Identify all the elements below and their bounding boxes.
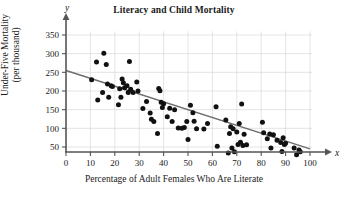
axes — [62, 13, 332, 156]
x-tick-label: 50 — [184, 158, 194, 168]
y-tick-label: 350 — [46, 30, 60, 40]
data-point — [151, 119, 156, 124]
data-point — [261, 130, 266, 135]
data-point — [192, 119, 197, 124]
data-point — [234, 130, 239, 135]
data-point — [205, 121, 210, 126]
data-point — [148, 111, 153, 116]
data-point — [116, 102, 121, 107]
data-point — [283, 141, 288, 146]
y-tick-label: 50 — [50, 142, 60, 152]
data-point — [165, 114, 170, 119]
data-point — [239, 102, 244, 107]
data-point — [194, 126, 199, 131]
data-point — [214, 104, 219, 109]
data-point — [260, 120, 265, 125]
data-point — [131, 90, 136, 95]
data-point — [182, 125, 187, 130]
data-point — [117, 86, 122, 91]
data-point — [268, 146, 273, 151]
x-tick-label: 80 — [257, 158, 267, 168]
data-point — [155, 131, 160, 136]
data-point — [244, 142, 249, 147]
data-point — [140, 106, 145, 111]
y-tick-label: 300 — [46, 49, 60, 59]
scatter-plot: 0102030405060708090100501001502002503003… — [0, 0, 348, 197]
x-tick-label: 0 — [64, 158, 69, 168]
y-axis-symbol: y — [64, 3, 70, 13]
data-point — [104, 62, 109, 67]
data-points — [89, 51, 303, 158]
tick-labels: 0102030405060708090100501001502002503003… — [46, 3, 340, 168]
x-tick-label: 90 — [281, 158, 291, 168]
x-axis-arrow-icon — [325, 149, 332, 156]
x-tick-label: 40 — [159, 158, 169, 168]
x-tick-label: 100 — [303, 158, 317, 168]
data-point — [95, 97, 100, 102]
data-point — [215, 144, 220, 149]
data-point — [201, 127, 206, 132]
y-tick-label: 250 — [46, 68, 60, 78]
y-tick-label: 100 — [46, 124, 60, 134]
x-tick-label: 20 — [110, 158, 120, 168]
data-point — [101, 51, 106, 56]
data-point — [118, 95, 123, 100]
data-point — [94, 59, 99, 64]
data-point — [89, 77, 94, 82]
data-point — [242, 132, 247, 137]
y-axis-arrow-icon — [63, 13, 70, 20]
data-point — [188, 103, 193, 108]
x-axis-symbol: x — [334, 148, 340, 158]
y-tick-label: 200 — [46, 86, 60, 96]
data-point — [281, 135, 286, 140]
data-point — [271, 132, 276, 137]
data-point — [110, 84, 115, 89]
data-point — [100, 90, 105, 95]
data-point — [167, 106, 172, 111]
data-point — [292, 146, 297, 151]
x-tick-label: 70 — [232, 158, 242, 168]
figure-container: Literacy and Child Mortality Under-Five … — [0, 0, 348, 197]
data-point — [161, 101, 166, 106]
x-tick-label: 30 — [135, 158, 145, 168]
data-point — [144, 99, 149, 104]
data-point — [190, 110, 195, 115]
data-point — [223, 118, 228, 123]
data-point — [106, 95, 111, 100]
data-point — [172, 107, 177, 112]
x-tick-label: 10 — [86, 158, 96, 168]
y-tick-label: 150 — [46, 105, 60, 115]
data-point — [170, 119, 175, 124]
data-point — [127, 59, 132, 64]
x-tick-label: 60 — [208, 158, 218, 168]
data-point — [135, 89, 140, 94]
data-point — [265, 136, 270, 141]
data-point — [186, 137, 191, 142]
data-point — [184, 119, 189, 124]
data-point — [157, 88, 162, 93]
data-point — [134, 80, 139, 85]
data-point — [237, 121, 242, 126]
data-point — [227, 131, 232, 136]
